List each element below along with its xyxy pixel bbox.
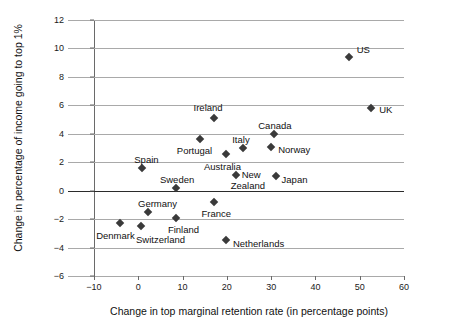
y-tick-mark-0 [90, 190, 94, 191]
data-point-label: Spain [134, 154, 158, 165]
y-tick-label--4: −4 [54, 243, 64, 253]
y-tick-label-10: 10 [54, 43, 64, 53]
y-tick-mark--4 [90, 247, 94, 248]
x-axis-title: Change in top marginal retention rate (i… [110, 305, 388, 317]
x-tick-label-30: 30 [266, 282, 276, 292]
data-point-marker [137, 222, 145, 230]
y-tick-mark-4 [90, 133, 94, 134]
x-tick-label-0: 0 [136, 282, 141, 292]
data-point-marker [271, 172, 279, 180]
x-tick-mark-40 [315, 276, 316, 280]
y-tick-label-8: 8 [59, 72, 64, 82]
x-tick-mark-60 [404, 276, 405, 280]
x-tick-label-60: 60 [399, 282, 409, 292]
data-point-label: Switzerland [136, 234, 185, 245]
data-point-label: Ireland [194, 102, 223, 113]
data-point-marker [209, 198, 217, 206]
gridline-y-12 [68, 20, 404, 21]
y-tick-label--6: −6 [54, 271, 64, 281]
data-point-marker [231, 171, 239, 179]
data-point-label: Finland [168, 224, 199, 235]
data-point-marker [196, 135, 204, 143]
x-tick-mark-10 [183, 276, 184, 280]
data-point-label: Japan [282, 174, 308, 185]
data-point-marker [144, 208, 152, 216]
y-tick-mark-8 [90, 76, 94, 77]
plot-area: −6−4−2024681012 −100102030405060 USUKIre… [94, 20, 404, 276]
y-axis-title: Change in percentage of income going to … [12, 13, 24, 263]
x-tick-mark-30 [271, 276, 272, 280]
gridline-y-10 [68, 48, 404, 49]
y-tick-label-4: 4 [59, 129, 64, 139]
data-point-marker [138, 164, 146, 172]
data-point-marker [344, 53, 352, 61]
x-tick-label-40: 40 [310, 282, 320, 292]
x-tick-label-10: 10 [178, 282, 188, 292]
data-point-marker [222, 149, 230, 157]
data-point-marker [267, 142, 275, 150]
y-tick-label-2: 2 [59, 157, 64, 167]
data-point-label: Netherlands [233, 238, 284, 249]
y-axis-line [94, 20, 95, 276]
data-point-label: Canada [258, 120, 291, 131]
data-point-label: Italy [232, 134, 249, 145]
x-tick-label-20: 20 [222, 282, 232, 292]
x-tick-label--10: −10 [86, 282, 101, 292]
data-point-label: France [202, 208, 232, 219]
y-tick-mark--2 [90, 219, 94, 220]
scatter-chart-figure: −6−4−2024681012 −100102030405060 USUKIre… [0, 0, 460, 321]
y-tick-mark-10 [90, 48, 94, 49]
x-tick-mark--10 [94, 276, 95, 280]
data-point-label: Zealand [231, 180, 265, 191]
x-tick-mark-20 [227, 276, 228, 280]
data-point-label: Denmark [96, 230, 135, 241]
data-point-marker [209, 114, 217, 122]
gridline-y-8 [68, 77, 404, 78]
gridline-y-6 [68, 105, 404, 106]
data-point-label: Norway [278, 144, 310, 155]
y-tick-mark-12 [90, 20, 94, 21]
y-tick-label--2: −2 [54, 214, 64, 224]
y-tick-label-0: 0 [59, 186, 64, 196]
y-tick-mark-6 [90, 105, 94, 106]
y-tick-label-6: 6 [59, 100, 64, 110]
data-point-marker [116, 219, 124, 227]
x-tick-label-50: 50 [355, 282, 365, 292]
data-point-marker [239, 144, 247, 152]
data-point-label: New [242, 169, 261, 180]
data-point-label: Germany [138, 198, 177, 209]
x-tick-mark-0 [138, 276, 139, 280]
data-point-label: US [357, 44, 370, 55]
y-tick-label-12: 12 [54, 15, 64, 25]
data-point-label: Portugal [177, 145, 212, 156]
x-tick-mark-50 [360, 276, 361, 280]
data-point-marker [270, 130, 278, 138]
y-tick-mark-2 [90, 162, 94, 163]
gridline-y--6 [68, 276, 404, 277]
data-point-label: Sweden [160, 174, 194, 185]
data-point-marker [222, 236, 230, 244]
data-point-marker [172, 213, 180, 221]
data-point-label: UK [379, 104, 392, 115]
